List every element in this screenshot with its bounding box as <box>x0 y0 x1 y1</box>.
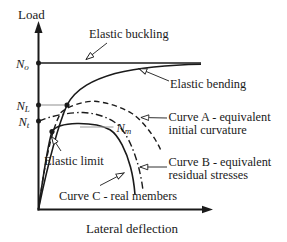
nl-label: NL <box>16 99 30 115</box>
no-axis-dot <box>36 61 41 66</box>
x-axis-title: Lateral deflection <box>86 221 179 236</box>
y-axis-title: Load <box>18 7 45 22</box>
nt-label: Nt <box>18 115 30 131</box>
curve-a-label-line1: Curve A - equivalent <box>169 110 272 124</box>
y-axis-arrow-icon <box>35 21 43 33</box>
x-axis-arrow-icon <box>202 206 213 213</box>
curve-b-label-line2: residual stresses <box>169 168 249 182</box>
elastic-limit-label: Elastic limit <box>44 154 104 168</box>
curve-a-label-line2: initial curvature <box>169 123 248 137</box>
nl-curve-dot <box>64 102 69 107</box>
diagram-canvas: Load Lateral deflection No NL Nt Nm Elas… <box>0 0 287 242</box>
nt-axis-dot <box>36 119 41 124</box>
elastic-bending-label: Elastic bending <box>170 77 246 91</box>
curve-a-leader-arrow-icon <box>141 118 167 119</box>
curve-c-leader-arrow-icon <box>100 173 124 186</box>
nl-axis-dot <box>36 103 41 108</box>
no-label: No <box>15 57 29 73</box>
load-deflection-diagram: Load Lateral deflection No NL Nt Nm Elas… <box>0 0 287 242</box>
elastic-buckling-label: Elastic buckling <box>89 27 169 41</box>
elastic-limit-dot <box>49 129 54 134</box>
nm-label: Nm <box>116 121 132 137</box>
curve-c-label: Curve C - real members <box>59 189 177 203</box>
elastic-bending-leader-arrow-icon <box>139 69 169 82</box>
elastic-buckling-leader-arrow-icon <box>86 43 107 60</box>
curve-b-label-line1: Curve B - equivalent <box>169 155 272 169</box>
